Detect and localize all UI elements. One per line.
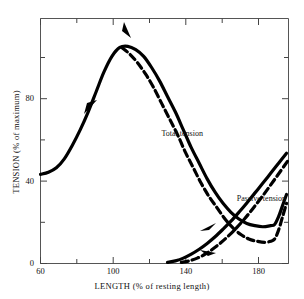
- arrowhead-passive-loading: [200, 223, 216, 231]
- y-tick-label-1: 40: [16, 176, 34, 186]
- figure-root: LENGTH (% of resting length) TENSION (% …: [0, 0, 304, 299]
- tension-length-chart: [0, 0, 304, 299]
- annotation-passive-tension: Passive tension: [237, 194, 286, 203]
- y-tick-label-0: 0: [16, 258, 34, 268]
- y-tick-label-2: 80: [16, 93, 34, 103]
- direction-arrowheads: [84, 22, 216, 256]
- x-tick-label-3: 180: [244, 266, 274, 276]
- arrowhead-total-loading: [84, 100, 97, 114]
- data-curves: [41, 46, 289, 262]
- arrowhead-total-unloading: [122, 22, 131, 38]
- plot-frame: [41, 19, 289, 264]
- x-tick-label-2: 140: [171, 266, 201, 276]
- annotation-total-tension: Total tension: [161, 129, 202, 138]
- series-path-1: [122, 47, 287, 242]
- x-tick-label-1: 100: [98, 266, 128, 276]
- y-axis-title: TENSION (% of maximum): [11, 52, 21, 232]
- x-axis-title: LENGTH (% of resting length): [0, 281, 304, 291]
